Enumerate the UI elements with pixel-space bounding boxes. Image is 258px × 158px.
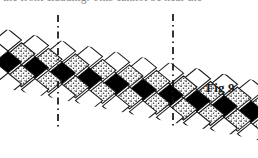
figure-caption-label: Fig 9 [206, 80, 235, 96]
diamond-lattice-figure [0, 0, 258, 158]
figure-page: the front cladding. This cannot be near … [0, 0, 258, 158]
